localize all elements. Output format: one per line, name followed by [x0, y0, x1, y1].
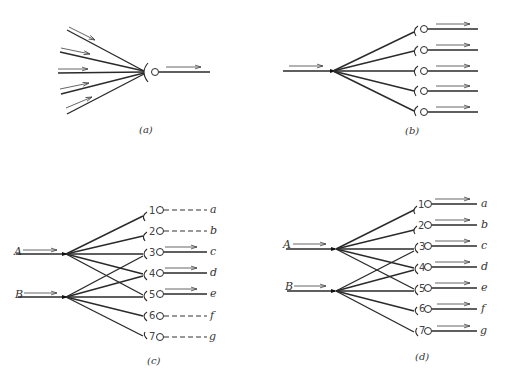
neuron-c-7: 7 g — [144, 330, 216, 343]
svg-text:4: 4 — [149, 268, 155, 279]
neuron-b-2 — [414, 45, 478, 56]
panel-b-divergence: (b) — [283, 24, 478, 136]
svg-text:6: 6 — [149, 310, 155, 321]
svg-text:g: g — [480, 324, 487, 337]
neuron-c-6: 6 f — [144, 309, 216, 322]
svg-text:3: 3 — [149, 247, 155, 258]
neuron-d-4: 4 d — [415, 260, 488, 274]
svg-text:1: 1 — [418, 199, 424, 210]
svg-text:d: d — [481, 260, 488, 273]
neuron-d-5: 5 e — [415, 281, 488, 295]
panel-a-convergence: (a) — [58, 27, 210, 135]
neuron-c-4: 4 d — [144, 266, 217, 280]
svg-text:5: 5 — [149, 289, 155, 300]
synapse-icon — [144, 63, 148, 82]
neuron-d-2: 2 b — [414, 218, 488, 234]
input-label-B: B — [14, 288, 23, 301]
svg-text:f: f — [480, 302, 487, 315]
svg-text:e: e — [210, 287, 217, 300]
svg-text:d: d — [210, 266, 217, 279]
neuron-d-6: 6 f — [415, 302, 487, 315]
svg-text:7: 7 — [149, 331, 155, 342]
svg-text:2: 2 — [418, 220, 424, 231]
neuron-b-3 — [414, 66, 478, 76]
caption-d: (d) — [415, 351, 429, 362]
neuron-c-2: 2 b — [143, 224, 217, 241]
neuron-c-5: 5 e — [144, 287, 217, 301]
svg-text:2: 2 — [149, 226, 155, 237]
caption-a: (a) — [139, 124, 153, 135]
svg-text:a: a — [481, 197, 488, 210]
neuron-d-7: 7 g — [416, 324, 487, 337]
caption-b: (b) — [405, 125, 419, 136]
neuron-b-5 — [414, 106, 478, 116]
svg-text:c: c — [210, 245, 216, 258]
neuron-b-4 — [414, 86, 478, 96]
svg-text:f: f — [209, 309, 216, 322]
neuron-icon — [152, 69, 159, 76]
svg-text:b: b — [481, 218, 488, 231]
neural-convergence-divergence-figure: (a) (b) — [0, 0, 505, 381]
neuron-c-3: 3 c — [144, 245, 216, 259]
svg-text:a: a — [210, 203, 217, 216]
svg-text:1: 1 — [149, 205, 155, 216]
svg-text:e: e — [481, 281, 488, 294]
caption-c: (c) — [147, 355, 161, 366]
neuron-c-1: 1 a — [143, 203, 216, 221]
svg-text:g: g — [209, 330, 216, 343]
svg-text:c: c — [481, 239, 487, 252]
svg-text:b: b — [210, 224, 217, 237]
panel-d-facilitation: A B 1 a 2 — [282, 197, 488, 362]
neuron-d-1: 1 a — [414, 197, 488, 214]
panel-c-subliminal-fringe: A B 1 a 2 b — [13, 203, 217, 366]
neuron-d-3: 3 c — [415, 239, 487, 253]
neuron-b-1 — [414, 24, 478, 36]
input-label-A: A — [13, 245, 22, 258]
